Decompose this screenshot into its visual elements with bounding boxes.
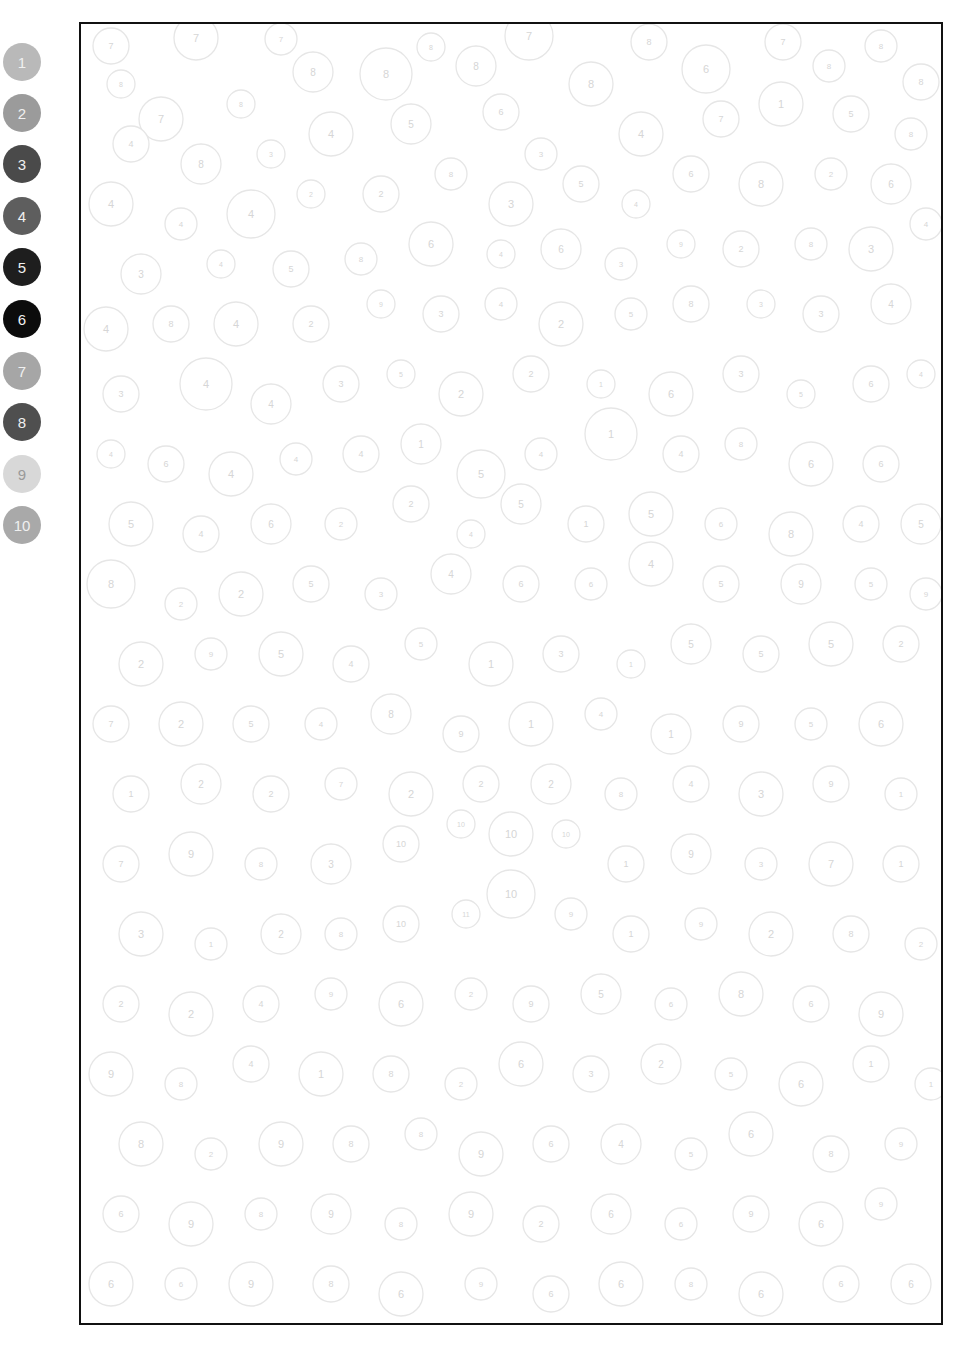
paint-region[interactable]: 6 (799, 1202, 843, 1246)
palette-swatch-3[interactable]: 3 (3, 145, 41, 183)
paint-region[interactable]: 2 (253, 776, 289, 812)
paint-region[interactable]: 3 (849, 227, 893, 271)
paint-region[interactable]: 3 (103, 376, 139, 412)
paint-region[interactable]: 8 (903, 64, 939, 100)
paint-region[interactable]: 8 (293, 52, 333, 92)
paint-region[interactable]: 6 (483, 94, 519, 130)
palette-swatch-8[interactable]: 8 (3, 403, 41, 441)
paint-region[interactable]: 5 (615, 298, 647, 330)
paint-region[interactable]: 1 (113, 776, 149, 812)
paint-region[interactable]: 8 (87, 560, 135, 608)
paint-region[interactable]: 4 (333, 646, 369, 682)
paint-region[interactable]: 5 (457, 450, 505, 498)
palette-swatch-1[interactable]: 1 (3, 43, 41, 81)
paint-region[interactable]: 3 (745, 848, 777, 880)
paint-region[interactable]: 4 (673, 766, 709, 802)
paint-region[interactable]: 9 (465, 1268, 497, 1300)
paint-region[interactable]: 6 (499, 1042, 543, 1086)
paint-region[interactable]: 5 (581, 974, 621, 1014)
palette-swatch-7[interactable]: 7 (3, 352, 41, 390)
paint-region[interactable]: 2 (363, 176, 399, 212)
paint-region[interactable]: 5 (501, 484, 541, 524)
paint-region[interactable]: 6 (409, 222, 453, 266)
paint-region[interactable]: 2 (103, 986, 139, 1022)
paint-region[interactable]: 4 (243, 986, 279, 1022)
paint-region[interactable]: 2 (513, 356, 549, 392)
paint-region[interactable]: 1 (651, 714, 691, 754)
paint-region[interactable]: 3 (323, 366, 359, 402)
paint-region[interactable]: 3 (311, 844, 351, 884)
paint-region[interactable]: 9 (89, 1052, 133, 1096)
paint-region[interactable]: 1 (613, 916, 649, 952)
paint-region[interactable]: 5 (109, 502, 153, 546)
paint-region[interactable]: 8 (673, 286, 709, 322)
paint-region[interactable]: 8 (153, 306, 189, 342)
paint-region[interactable]: 2 (181, 764, 221, 804)
paint-region[interactable]: 8 (739, 162, 783, 206)
paint-region[interactable]: 5 (405, 628, 437, 660)
paint-region[interactable]: 7 (765, 24, 801, 60)
paint-region[interactable]: 9 (910, 578, 941, 610)
paint-region[interactable]: 2 (439, 372, 483, 416)
paint-region[interactable]: 2 (389, 772, 433, 816)
paint-region[interactable]: 2 (531, 764, 571, 804)
paint-region[interactable]: 4 (622, 190, 650, 218)
paint-region[interactable]: 8 (769, 512, 813, 556)
paint-region[interactable]: 2 (219, 572, 263, 616)
paint-region[interactable]: 6 (729, 1112, 773, 1156)
paint-region[interactable]: 3 (525, 138, 557, 170)
paint-region[interactable]: 8 (417, 33, 445, 61)
paint-region[interactable]: 3 (543, 636, 579, 672)
paint-by-number-canvas[interactable]: 7778888788678888784834563471584442283546… (79, 22, 943, 1325)
paint-region[interactable]: 8 (895, 118, 927, 150)
paint-region[interactable]: 5 (671, 624, 711, 664)
paint-region[interactable]: 9 (555, 898, 587, 930)
paint-region[interactable]: 6 (871, 164, 911, 204)
paint-region[interactable]: 2 (169, 992, 213, 1036)
paint-region[interactable]: 3 (605, 248, 637, 280)
paint-region[interactable]: 11 (452, 900, 480, 928)
paint-region[interactable]: 7 (93, 706, 129, 742)
paint-region[interactable]: 4 (214, 302, 258, 346)
paint-region[interactable]: 9 (443, 716, 479, 752)
paint-region[interactable]: 2 (641, 1044, 681, 1084)
paint-region[interactable]: 6 (739, 1272, 783, 1316)
paint-region[interactable]: 9 (865, 1188, 897, 1220)
paint-region[interactable]: 7 (265, 24, 297, 55)
paint-region[interactable]: 8 (813, 50, 845, 82)
paint-region[interactable]: 9 (229, 1262, 273, 1306)
paint-region[interactable]: 5 (629, 492, 673, 536)
paint-region[interactable]: 5 (293, 566, 329, 602)
paint-region[interactable]: 8 (181, 144, 221, 184)
paint-region[interactable]: 3 (573, 1056, 609, 1092)
paint-region[interactable]: 1 (885, 778, 917, 810)
paint-region[interactable]: 4 (907, 360, 935, 388)
paint-region[interactable]: 9 (449, 1192, 493, 1236)
paint-region[interactable]: 8 (360, 48, 412, 100)
paint-region[interactable]: 3 (739, 772, 783, 816)
paint-region[interactable]: 8 (119, 1122, 163, 1166)
paint-region[interactable]: 4 (251, 384, 291, 424)
paint-region[interactable]: 6 (533, 1126, 569, 1162)
paint-region[interactable]: 3 (121, 254, 161, 294)
paint-region[interactable]: 8 (165, 1068, 197, 1100)
paint-region[interactable]: 3 (489, 182, 533, 226)
paint-region[interactable]: 5 (809, 622, 853, 666)
paint-region[interactable]: 2 (119, 642, 163, 686)
paint-region[interactable]: 1 (608, 846, 644, 882)
paint-region[interactable]: 6 (103, 1196, 139, 1232)
paint-region[interactable]: 8 (725, 428, 757, 460)
paint-region[interactable]: 4 (89, 182, 133, 226)
canvas-svg[interactable]: 7778888788678888784834563471584442283546… (81, 24, 941, 1323)
paint-region[interactable]: 6 (533, 1276, 569, 1312)
paint-region[interactable]: 4 (619, 112, 663, 156)
paint-region[interactable]: 3 (119, 912, 163, 956)
paint-region[interactable]: 9 (733, 1196, 769, 1232)
paint-region[interactable]: 4 (233, 1046, 269, 1082)
paint-region[interactable]: 4 (84, 307, 128, 351)
paint-region[interactable]: 4 (487, 240, 515, 268)
paint-region[interactable]: 6 (793, 986, 829, 1022)
paint-region[interactable]: 6 (682, 45, 730, 93)
paint-region[interactable]: 9 (513, 986, 549, 1022)
paint-region[interactable]: 4 (431, 554, 471, 594)
